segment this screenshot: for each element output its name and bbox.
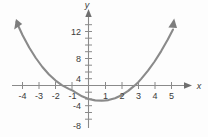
parabola-graph-figure: -4 -3 -2 -1 1 2 3 4 5 12 8 4 -4 -8 y x <box>0 0 208 137</box>
x-axis-arrowhead <box>184 82 192 88</box>
x-tick-label-5: 5 <box>169 91 174 101</box>
y-axis-arrowhead <box>85 9 91 17</box>
y-tick-label-12: 12 <box>71 27 81 37</box>
x-tick-label-2: 2 <box>119 91 124 101</box>
plot-canvas: -4 -3 -2 -1 1 2 3 4 5 12 8 4 -4 -8 y x <box>0 0 208 137</box>
parabola-curve <box>17 22 174 101</box>
x-tick-label--2: -2 <box>52 91 60 101</box>
x-tick-label--4: -4 <box>18 91 26 101</box>
x-axis-label: x <box>196 81 202 91</box>
y-axis <box>85 9 91 128</box>
x-tick-label--3: -3 <box>35 91 43 101</box>
x-tick-label-4: 4 <box>152 91 157 101</box>
y-tick-label-8: 8 <box>76 54 81 64</box>
curve-right-arrowhead <box>168 19 177 29</box>
y-tick-label--4: -4 <box>73 101 81 111</box>
x-tick-label-3: 3 <box>136 91 141 101</box>
y-tick-label-4: 4 <box>76 74 81 84</box>
x-tick-label--1: -1 <box>68 91 76 101</box>
x-tick-label-1: 1 <box>103 91 108 101</box>
y-axis-label: y <box>84 0 90 10</box>
y-tick-label--8: -8 <box>73 121 81 131</box>
